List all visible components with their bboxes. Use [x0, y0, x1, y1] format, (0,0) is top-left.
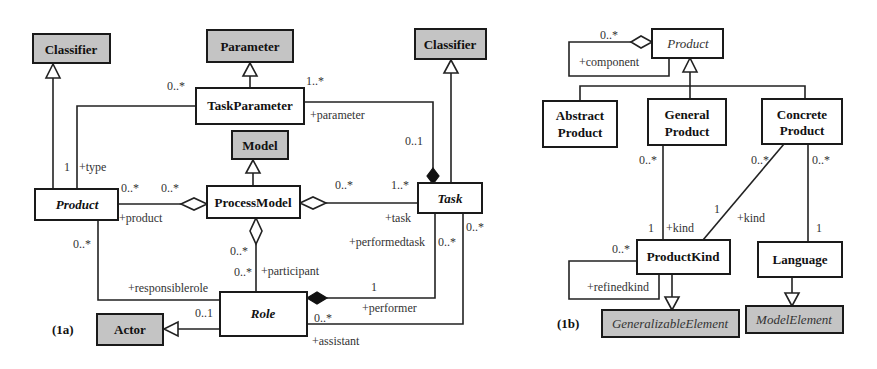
generalization-arrow-icon	[683, 58, 697, 72]
multiplicity: 1	[648, 221, 654, 235]
svg-text:Parameter: Parameter	[220, 39, 279, 54]
svg-text:ProductKind: ProductKind	[647, 249, 720, 264]
panel-label: (1b)	[557, 316, 579, 331]
role-name: +assistant	[312, 334, 360, 348]
class-model-element: ModelElement	[746, 306, 843, 333]
multiplicity: 1	[64, 160, 70, 174]
class-concrete-product: Concrete Product	[762, 99, 842, 144]
svg-text:Product: Product	[665, 124, 710, 139]
multiplicity: 0..*	[167, 79, 185, 93]
multiplicity: 0..*	[812, 153, 830, 167]
role-name: +performer	[362, 301, 417, 315]
multiplicity: 0..*	[335, 178, 353, 192]
aggregation-diamond-icon	[631, 36, 652, 48]
aggregation-diamond-icon	[250, 218, 262, 244]
assoc-taskparameter-product	[77, 106, 196, 189]
svg-text:GeneralizableElement: GeneralizableElement	[612, 316, 729, 331]
multiplicity: 0..*	[230, 244, 248, 258]
class-productkind: ProductKind	[637, 240, 730, 274]
class-abstract-product: Abstract Product	[543, 101, 617, 147]
class-language: Language	[758, 242, 842, 277]
class-classifier-left: Classifier	[33, 34, 110, 63]
generalization-arrow-icon	[243, 63, 257, 76]
generalization-arrow-icon	[164, 322, 178, 336]
svg-text:ProcessModel: ProcessModel	[214, 195, 291, 210]
multiplicity: 0..*	[234, 265, 252, 279]
uml-diagram: Classifier Parameter TaskParameter Class…	[0, 0, 877, 369]
role-name: +kind	[666, 221, 694, 235]
composition-diamond-icon	[427, 168, 439, 184]
aggregation-diamond-icon	[300, 197, 326, 209]
svg-text:Model: Model	[242, 138, 278, 153]
svg-text:Product: Product	[780, 123, 825, 138]
assoc-concreteproduct-productkind	[703, 144, 784, 240]
class-generalizable-element: GeneralizableElement	[602, 310, 739, 337]
class-product: Product	[35, 189, 118, 220]
multiplicity: 1	[816, 221, 822, 235]
class-model: Model	[232, 131, 288, 159]
svg-text:Actor: Actor	[114, 322, 146, 337]
composition-diamond-icon	[307, 292, 327, 304]
class-role: Role	[220, 292, 307, 336]
multiplicity: 0..*	[639, 153, 657, 167]
role-name: +responsiblerole	[128, 281, 208, 295]
svg-text:ModelElement: ModelElement	[755, 312, 832, 327]
generalization-arrow-icon	[785, 293, 799, 306]
role-name: +type	[79, 160, 106, 174]
generalization-arrow-icon	[665, 297, 679, 310]
role-name: +parameter	[310, 108, 365, 122]
multiplicity: 0..*	[751, 153, 769, 167]
class-parameter: Parameter	[207, 30, 293, 62]
svg-text:Product: Product	[666, 36, 709, 51]
generalization-arrow-icon	[46, 64, 60, 78]
svg-text:Classifier: Classifier	[424, 37, 477, 52]
svg-text:Classifier: Classifier	[45, 42, 98, 57]
multiplicity: 1..*	[391, 178, 409, 192]
svg-text:TaskParameter: TaskParameter	[207, 98, 293, 113]
multiplicity: 1	[371, 280, 377, 294]
generalization-arrow-icon	[246, 160, 260, 173]
class-taskparameter: TaskParameter	[196, 88, 304, 124]
svg-text:Abstract: Abstract	[556, 108, 605, 123]
svg-text:Product: Product	[56, 197, 99, 212]
role-name: +task	[385, 211, 411, 225]
role-name: +component	[579, 55, 640, 69]
multiplicity: 0..*	[121, 181, 139, 195]
multiplicity: 0..*	[600, 28, 618, 42]
assoc-task-role-performer	[327, 213, 435, 298]
multiplicity: 0..*	[314, 311, 332, 325]
multiplicity: 0..*	[612, 242, 630, 256]
multiplicity: 0..*	[161, 181, 179, 195]
panel-1b: Product Abstract Product General Product…	[543, 28, 843, 337]
multiplicity: 0..1	[405, 134, 423, 148]
class-actor: Actor	[97, 314, 163, 345]
multiplicity: 1	[714, 202, 720, 216]
role-name: +kind	[737, 211, 765, 225]
svg-text:Product: Product	[558, 125, 603, 140]
multiplicity: 0..1	[195, 306, 213, 320]
class-general-product: General Product	[648, 99, 726, 145]
svg-text:General: General	[665, 107, 710, 122]
role-name: +product	[119, 211, 163, 225]
class-product-b: Product	[652, 29, 723, 58]
generalization-arrow-icon	[444, 60, 458, 73]
svg-text:Concrete: Concrete	[777, 107, 828, 122]
multiplicity: 0..*	[438, 235, 456, 249]
class-processmodel: ProcessModel	[207, 186, 300, 218]
class-classifier-right: Classifier	[415, 29, 486, 59]
role-name: +refinedkind	[587, 280, 649, 294]
class-task: Task	[418, 183, 482, 213]
aggregation-diamond-icon	[181, 198, 207, 210]
multiplicity: 0..*	[73, 237, 91, 251]
svg-text:Role: Role	[250, 306, 276, 321]
multiplicity: 0..*	[466, 220, 484, 234]
multiplicity: 1..*	[306, 74, 324, 88]
svg-text:Language: Language	[773, 252, 828, 267]
role-name: +participant	[261, 264, 320, 278]
panel-1a: Classifier Parameter TaskParameter Class…	[33, 29, 486, 348]
svg-text:Task: Task	[438, 191, 463, 206]
panel-label: (1a)	[52, 322, 74, 337]
role-name: +performedtask	[349, 235, 425, 249]
